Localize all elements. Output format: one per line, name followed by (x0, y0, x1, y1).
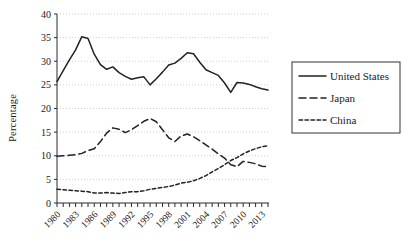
line-chart: 0510152025303540 19801983198619891992199… (0, 0, 410, 249)
x-tick-label: 2004 (191, 209, 212, 230)
x-tick-label: 1995 (135, 209, 156, 230)
x-axis: 1980198319861989199219951998200120042007… (42, 203, 269, 230)
legend-label-china: China (330, 114, 356, 126)
y-axis-label-group: Percentage (7, 94, 18, 142)
y-tick-label: 40 (41, 9, 51, 20)
x-tick-label: 2010 (228, 209, 249, 230)
y-tick-label: 25 (41, 79, 51, 90)
y-axis-title: Percentage (7, 94, 18, 142)
y-tick-label: 35 (41, 32, 51, 43)
x-tick-label: 1980 (42, 209, 63, 230)
x-tick-label: 1992 (116, 209, 137, 230)
y-tick-label: 5 (46, 174, 51, 185)
legend-label-united-states: United States (330, 70, 389, 82)
y-tick-label: 10 (41, 150, 51, 161)
series-group (57, 37, 268, 194)
series-line-china (57, 146, 268, 194)
y-axis: 0510152025303540 (41, 9, 57, 209)
legend: United StatesJapanChina (292, 62, 400, 133)
chart-container: 0510152025303540 19801983198619891992199… (0, 0, 410, 249)
series-line-united-states (57, 37, 268, 93)
x-tick-label: 1986 (79, 209, 100, 230)
x-tick-label: 1998 (154, 209, 175, 230)
y-tick-label: 0 (46, 198, 51, 209)
x-tick-label: 1983 (61, 209, 82, 230)
series-line-japan (57, 118, 268, 166)
y-tick-label: 20 (41, 103, 51, 114)
y-tick-label: 15 (41, 127, 51, 138)
x-tick-label: 2007 (209, 209, 230, 230)
x-tick-label: 1989 (98, 209, 119, 230)
y-tick-label: 30 (41, 56, 51, 67)
x-tick-label: 2001 (172, 209, 193, 230)
legend-label-japan: Japan (330, 92, 356, 104)
x-tick-label: 2013 (247, 209, 268, 230)
